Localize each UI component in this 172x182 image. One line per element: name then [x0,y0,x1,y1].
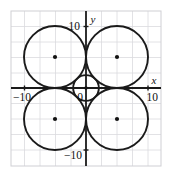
origin-label: 0 [77,91,83,103]
center-point-lower-left [53,117,57,121]
center-point-upper-left [53,55,57,59]
y-tick-label-positive-10: 10 [69,20,81,32]
center-point-lower-right [115,117,119,121]
y-axis-label: y [90,13,96,25]
coordinate-plane-plot: 10 −10 −10 10 0 x y [0,0,172,182]
x-axis-label: x [151,74,157,86]
y-tick-label-negative-10: −10 [64,149,82,161]
center-point-upper-right [115,55,119,59]
x-tick-label-positive-10: 10 [147,91,159,103]
center-point-origin [84,86,87,89]
x-tick-label-negative-10: −10 [13,91,31,103]
math-figure: 10 −10 −10 10 0 x y [0,0,172,182]
